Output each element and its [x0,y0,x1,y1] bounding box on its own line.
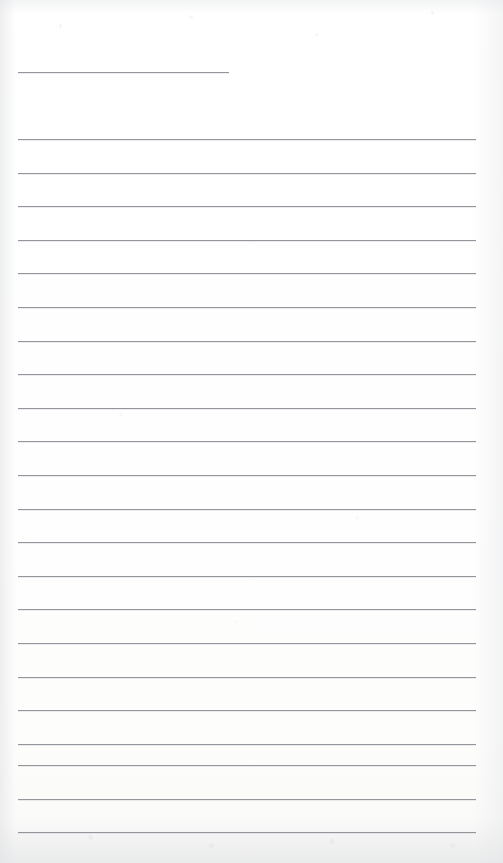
rule-10 [18,441,476,442]
rule-13 [18,542,476,543]
rule-20 [18,765,476,766]
rule-06 [18,307,476,308]
rule-02 [18,173,476,174]
rule-17 [18,677,476,678]
rule-12 [18,509,476,510]
rule-03 [18,206,476,207]
rule-14 [18,576,476,577]
paper-surface [0,0,503,863]
rule-19 [18,744,476,745]
rule-15 [18,609,476,610]
rule-08 [18,374,476,375]
rule-09 [18,408,476,409]
rule-16 [18,643,476,644]
rule-04 [18,240,476,241]
rule-18 [18,710,476,711]
rule-07 [18,341,476,342]
title-rule [18,72,229,73]
rule-21 [18,799,476,800]
scanned-page: Blank ruled notepaper scan [0,0,503,863]
rule-22 [18,832,476,833]
rule-01 [18,139,476,140]
rule-11 [18,475,476,476]
rule-05 [18,273,476,274]
